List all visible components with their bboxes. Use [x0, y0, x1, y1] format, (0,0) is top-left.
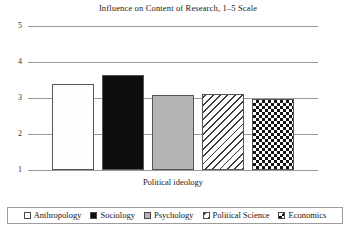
legend-swatch-icon	[144, 212, 151, 219]
y-axis-tick-label: 4	[18, 58, 22, 66]
y-axis-tick-label: 3	[18, 94, 22, 102]
bar-sociology	[102, 75, 144, 170]
bar-political-science	[202, 94, 244, 170]
legend-swatch-icon	[90, 212, 97, 219]
y-axis-tick-label: 2	[18, 130, 22, 138]
legend-item-psychology[interactable]: Psychology	[144, 211, 194, 220]
bars-group	[28, 26, 318, 170]
chart-legend: AnthropologySociologyPsychologyPolitical…	[7, 207, 343, 224]
legend-item-sociology[interactable]: Sociology	[90, 211, 134, 220]
legend-item-anthropology[interactable]: Anthropology	[24, 211, 82, 220]
legend-item-label: Economics	[288, 211, 326, 220]
legend-item-label: Anthropology	[34, 211, 82, 220]
legend-item-label: Political Science	[213, 211, 270, 220]
legend-item-political-science[interactable]: Political Science	[203, 211, 270, 220]
legend-swatch-icon	[203, 212, 210, 219]
gridline	[28, 170, 318, 171]
y-axis-tick-label: 1	[18, 166, 22, 174]
bar-chart: Influence on Content of Research, 1–5 Sc…	[0, 0, 356, 235]
legend-swatch-icon	[278, 212, 285, 219]
legend-swatch-icon	[24, 212, 31, 219]
x-axis-label: Political ideology	[28, 177, 318, 187]
legend-item-economics[interactable]: Economics	[278, 211, 326, 220]
chart-title: Influence on Content of Research, 1–5 Sc…	[0, 3, 356, 13]
bar-psychology	[152, 95, 194, 170]
plot-area: 54321	[28, 26, 318, 170]
bar-economics	[252, 99, 294, 170]
bar-anthropology	[52, 84, 94, 170]
legend-item-label: Psychology	[154, 211, 194, 220]
legend-item-label: Sociology	[100, 211, 134, 220]
y-axis-tick-label: 5	[18, 22, 22, 30]
